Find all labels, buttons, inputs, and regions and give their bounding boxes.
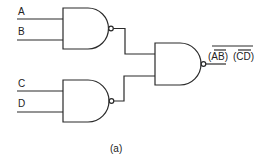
nand-gate-ab xyxy=(63,8,108,49)
input-label-c: C xyxy=(18,78,25,89)
output-label-ab: (AB) xyxy=(208,51,228,62)
figure-caption: (a) xyxy=(110,143,122,154)
inversion-bubble-output xyxy=(201,62,206,67)
nand-gate-output xyxy=(155,43,201,85)
input-label-a: A xyxy=(18,6,25,17)
inversion-bubble-ab xyxy=(109,26,114,31)
inversion-bubble-cd xyxy=(109,99,114,104)
nand-gate-cd xyxy=(63,80,109,122)
input-label-d: D xyxy=(18,98,25,109)
wire-ab-to-output-gate xyxy=(113,29,155,55)
wire-cd-to-output-gate xyxy=(114,76,155,101)
logic-diagram: A B C D (AB) (CD) (a) xyxy=(0,0,270,162)
input-label-b: B xyxy=(18,26,25,37)
output-label-cd: (CD) xyxy=(233,51,254,62)
